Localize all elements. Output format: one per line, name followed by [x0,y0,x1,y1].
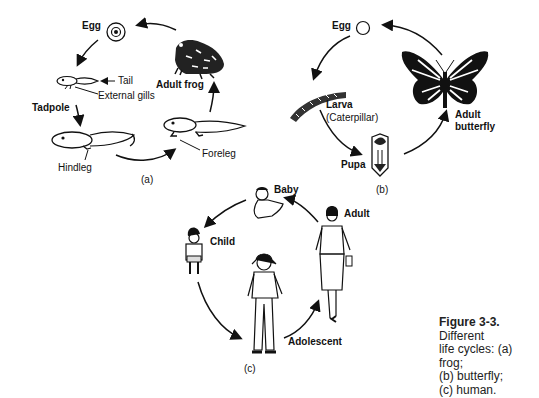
arrow-frog-to-egg [138,24,176,30]
arrow-tadpole-to-hindleg [76,105,80,124]
hindleg-label: Hindleg [58,162,92,173]
adult-frog-icon [175,40,224,79]
panel-c-label: (c) [244,363,256,374]
arrow-adolescent-to-adult [284,302,318,338]
tadpole-foreleg-icon [164,118,245,136]
adolescent-label: Adolescent [288,336,342,347]
panel-b-label: (b) [376,184,388,195]
figure-caption: Figure 3-3. Different life cycles: (a) f… [439,316,539,397]
adolescent-icon [248,254,282,352]
adult-butterfly-icon [402,51,489,108]
frog-egg-icon [107,23,125,41]
adult-label: Adult [344,208,370,219]
pupa-label: Pupa [341,159,365,170]
larva-label: Larva [326,99,353,110]
arrow-adult-to-baby [286,198,318,222]
arrow-butterfly-to-egg [384,25,442,55]
panel-a-label: (a) [141,174,153,185]
adult-human-icon [316,206,352,322]
arrow-foreleg-to-frog [210,84,214,112]
pupa-icon [372,134,388,176]
child-icon [186,227,202,274]
arrow-pupa-to-butterfly [404,112,446,154]
arrow-child-to-adolescent [198,282,240,338]
butterfly-egg-label: Egg [332,20,351,31]
child-label: Child [210,236,235,247]
external-gills-label: External gills [98,90,155,101]
caption-figure-number: Figure 3-3. [439,315,500,329]
butterfly-egg-icon [357,22,370,35]
caption-line-4: (c) human. [439,383,496,397]
arrow-egg-to-tadpole [78,40,98,64]
adult-butterfly-label-line2: butterfly [455,121,495,132]
caterpillar-label: (Caterpillar) [326,112,378,123]
caption-line-1: Different [439,329,484,343]
arrow-egg-to-larva [314,36,350,78]
caption-line-2: life cycles: (a) frog; [439,342,512,370]
foreleg-label: Foreleg [202,148,236,159]
frog-egg-label: Egg [82,20,101,31]
tail-label: Tail [118,75,133,86]
arrow-hindleg-to-foreleg [116,150,174,160]
human-cycle [186,187,352,352]
adult-butterfly-label-line1: Adult [455,109,481,120]
adult-frog-label: Adult frog [156,79,204,90]
caption-line-3: (b) butterfly; [439,369,503,383]
young-tadpole-icon [57,77,98,90]
tadpole-label: Tadpole [32,102,70,113]
arrow-baby-to-child [206,200,246,226]
tadpole-hindleg-icon [52,132,134,149]
butterfly-cycle [290,22,488,177]
baby-label: Baby [274,184,298,195]
